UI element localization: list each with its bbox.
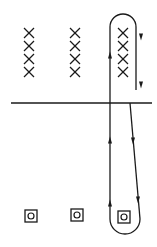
x-mark-icon (70, 67, 80, 77)
magnetic-field-loop-diagram (0, 0, 157, 247)
arrow-down-icon (139, 82, 143, 89)
x-mark-icon (70, 41, 80, 51)
current-direction-arrows (108, 34, 143, 207)
x-mark-icon (24, 54, 34, 64)
loop-bottom-arc (110, 219, 140, 234)
field-out-of-page-group (25, 209, 130, 223)
arrow-up-icon (108, 137, 112, 144)
dot-in-square-icon (25, 210, 37, 222)
arrow-up-icon (108, 52, 112, 59)
x-mark-icon (24, 41, 34, 51)
field-into-page-group (24, 28, 128, 77)
x-mark-icon (24, 28, 34, 38)
loop-top-arc (110, 14, 136, 90)
x-mark-icon (118, 67, 128, 77)
x-mark-icon (118, 54, 128, 64)
x-mark-icon (70, 28, 80, 38)
x-mark-icon (118, 28, 128, 38)
x-mark-icon (118, 41, 128, 51)
dot-in-square-icon (71, 209, 83, 221)
dot-in-square-icon (118, 211, 130, 223)
x-mark-icon (24, 67, 34, 77)
current-loop (110, 14, 140, 234)
arrow-down-icon (136, 197, 140, 204)
arrow-down-icon (131, 138, 135, 145)
x-mark-icon (70, 54, 80, 64)
arrow-down-icon (139, 34, 143, 41)
arrow-up-icon (108, 200, 112, 207)
